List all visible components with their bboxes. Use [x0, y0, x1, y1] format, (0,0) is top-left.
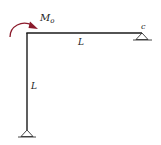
moment-arrow-icon	[10, 22, 38, 38]
moment-label: Mo	[39, 12, 54, 25]
beam-length-label: L	[77, 37, 84, 47]
column-length-label: L	[30, 81, 37, 91]
frame-diagram: Mo c L L	[0, 0, 161, 145]
right-pin-support-icon	[133, 33, 152, 40]
right-support-label: c	[141, 22, 146, 31]
bottom-pin-support-icon	[18, 130, 36, 137]
